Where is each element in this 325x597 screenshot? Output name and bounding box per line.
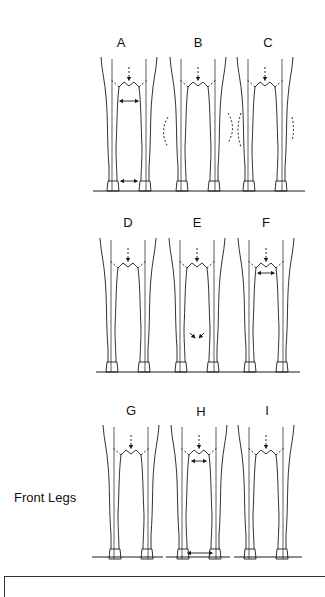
panel-g xyxy=(103,425,159,559)
panel-f xyxy=(238,238,294,372)
panel-c xyxy=(237,57,294,191)
panel-a xyxy=(101,57,157,191)
panel-e xyxy=(169,238,225,372)
panel-b xyxy=(164,57,233,191)
panel-d xyxy=(100,238,156,372)
panel-h xyxy=(171,425,227,559)
caption-box xyxy=(4,576,325,597)
panel-i xyxy=(238,425,294,559)
